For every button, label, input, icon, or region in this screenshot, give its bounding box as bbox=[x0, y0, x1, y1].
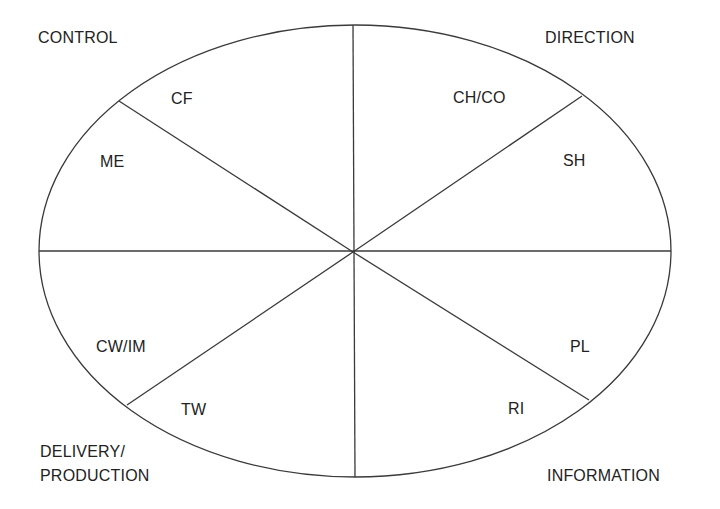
segment-label-me: ME bbox=[100, 153, 124, 171]
segment-label-tw: TW bbox=[181, 401, 206, 419]
diagonal-lower-right bbox=[353, 252, 589, 400]
quadrant-label-control: CONTROL bbox=[38, 29, 118, 47]
quadrant-label-production: PRODUCTION bbox=[40, 467, 150, 485]
segment-label-sh: SH bbox=[563, 152, 586, 170]
quadrant-label-delivery: DELIVERY/ bbox=[40, 443, 125, 461]
segment-label-ri: RI bbox=[508, 400, 524, 418]
segmented-ellipse-diagram bbox=[0, 0, 720, 509]
diagonal-lower-left bbox=[127, 252, 353, 405]
segment-label-cw-im: CW/IM bbox=[96, 338, 146, 356]
diagonal-upper-left bbox=[119, 101, 353, 252]
segment-label-ch-co: CH/CO bbox=[453, 89, 506, 107]
segment-label-pl: PL bbox=[570, 338, 590, 356]
diagonal-upper-right bbox=[353, 96, 582, 252]
quadrant-label-information: INFORMATION bbox=[547, 467, 660, 485]
quadrant-label-direction: DIRECTION bbox=[545, 29, 635, 47]
segment-label-cf: CF bbox=[171, 90, 193, 108]
